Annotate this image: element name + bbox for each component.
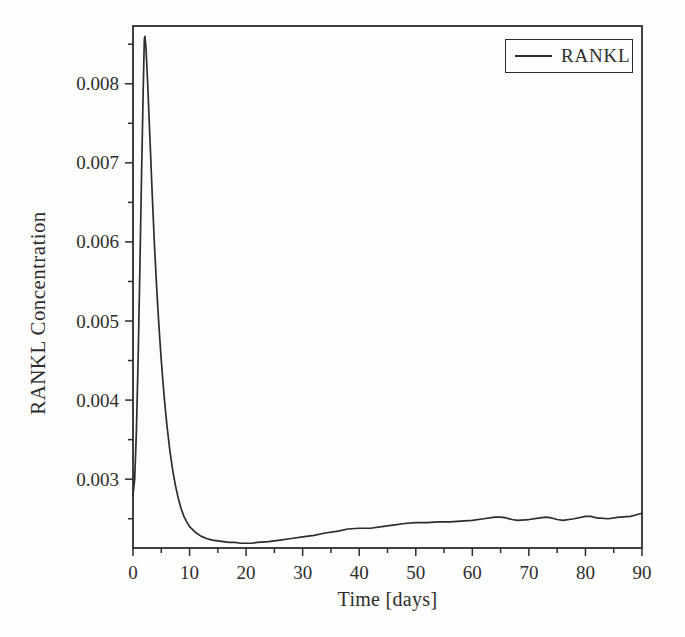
series-line-rankl xyxy=(133,36,642,543)
x-tick-label: 40 xyxy=(350,562,369,583)
y-tick-label: 0.006 xyxy=(76,231,119,252)
y-tick-label: 0.005 xyxy=(76,311,119,332)
x-tick-label: 60 xyxy=(463,562,482,583)
legend-line-icon xyxy=(515,55,552,57)
y-tick-label: 0.003 xyxy=(76,469,119,490)
x-tick-label: 50 xyxy=(406,562,425,583)
plot-frame xyxy=(133,26,642,548)
legend-label: RANKL xyxy=(561,45,630,67)
x-tick-label: 80 xyxy=(576,562,595,583)
x-tick-label: 10 xyxy=(180,562,199,583)
x-tick-label: 0 xyxy=(128,562,138,583)
legend: RANKL xyxy=(505,39,633,73)
x-tick-label: 20 xyxy=(237,562,256,583)
y-tick-label: 0.008 xyxy=(76,73,119,94)
y-tick-label: 0.004 xyxy=(76,390,119,411)
x-tick-label: 30 xyxy=(293,562,312,583)
rankl-concentration-figure: 01020304050607080900.0030.0040.0050.0060… xyxy=(0,0,685,637)
y-axis-tick-labels: 0.0030.0040.0050.0060.0070.008 xyxy=(76,73,119,489)
y-axis-ticks xyxy=(125,44,133,519)
y-tick-label: 0.007 xyxy=(76,152,119,173)
x-axis-tick-labels: 0102030405060708090 xyxy=(128,562,651,583)
x-axis-title: Time [days] xyxy=(133,588,642,611)
x-tick-label: 70 xyxy=(519,562,538,583)
y-axis-title: RANKL Concentration xyxy=(26,211,51,414)
x-tick-label: 90 xyxy=(633,562,652,583)
line-chart: 01020304050607080900.0030.0040.0050.0060… xyxy=(0,0,685,637)
x-axis-ticks xyxy=(133,548,642,556)
